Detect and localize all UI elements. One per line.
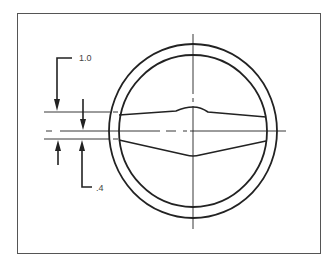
valve-diagram: 1.0 .4 bbox=[0, 0, 335, 263]
arrow-down-icon bbox=[80, 119, 86, 130]
valve-plate-lower bbox=[119, 140, 266, 156]
dimension-label-1-0: 1.0 bbox=[79, 53, 92, 63]
frame-border bbox=[18, 14, 321, 254]
dimension-lower-arrow-up bbox=[55, 140, 61, 165]
dimension-label-0-4: .4 bbox=[96, 183, 104, 193]
valve-plate-upper bbox=[119, 107, 266, 117]
arrow-up-icon bbox=[55, 140, 61, 151]
dimension-inner-arrow-down bbox=[80, 99, 86, 130]
extension-lines bbox=[44, 112, 118, 139]
dimension-0-4-leader bbox=[79, 140, 92, 187]
arrow-up-icon bbox=[79, 140, 85, 151]
arrow-down-icon bbox=[54, 99, 60, 111]
dimension-1-0-leader bbox=[54, 58, 72, 111]
